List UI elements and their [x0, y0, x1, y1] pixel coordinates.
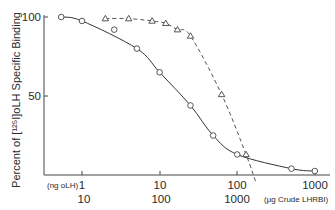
- circle-marker: [157, 70, 163, 76]
- binding-curve-chart: Percent of [¹²⁵I]oLH Specific Binding 10…: [0, 0, 335, 210]
- circle-marker: [58, 14, 64, 20]
- x2-tick-label-100: 100: [151, 193, 170, 205]
- circle-marker: [134, 46, 140, 52]
- series-crude-lhrbi: [102, 15, 256, 183]
- triangle-marker: [174, 26, 180, 31]
- olh-fit-line: [61, 17, 315, 171]
- x-tick-label-1000: 1000: [302, 179, 328, 191]
- circle-marker: [79, 18, 85, 24]
- circle-marker: [312, 168, 318, 174]
- x2-tick-label-1000: 1000: [224, 193, 250, 205]
- x-tick-label-1: 1: [79, 179, 85, 191]
- x-unit-primary: (ng oLH): [47, 181, 78, 190]
- circle-marker: [111, 27, 117, 33]
- x-unit-secondary: (µg Crude LHRBI): [264, 195, 329, 204]
- y-tick-label-100: 100: [22, 11, 41, 23]
- x2-tick-label-10: 10: [78, 193, 91, 205]
- triangle-marker: [218, 91, 224, 96]
- triangle-marker: [126, 15, 132, 20]
- y-axis-title: Percent of [¹²⁵I]oLH Specific Binding: [10, 12, 22, 188]
- x-tick-label-100: 100: [227, 179, 246, 191]
- circle-marker: [188, 103, 194, 109]
- x-tick-label-10: 10: [154, 179, 167, 191]
- circle-marker: [210, 133, 216, 139]
- triangle-marker: [243, 151, 249, 156]
- circle-marker: [289, 166, 295, 172]
- circle-marker: [234, 152, 240, 158]
- y-tick-label-50: 50: [28, 90, 41, 102]
